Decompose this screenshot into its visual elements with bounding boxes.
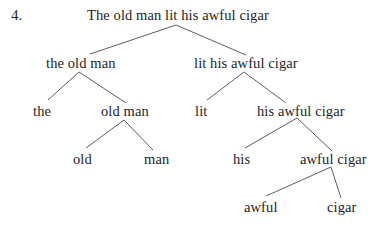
- node-lit-his-awful-cigar: lit his awful cigar: [194, 56, 298, 71]
- edge-oldman-left: [86, 120, 124, 148]
- edge-np-right: [297, 118, 332, 151]
- node-root: The old man lit his awful cigar: [87, 8, 269, 23]
- edge-root-left: [90, 25, 176, 54]
- node-the-old-man: the old man: [46, 56, 116, 71]
- node-his: his: [233, 152, 250, 167]
- edge-np-left: [245, 118, 297, 148]
- edge-theoldman-left: [48, 72, 79, 100]
- edge-root-right: [176, 25, 246, 55]
- edge-awfulcigar-left: [266, 167, 331, 196]
- edge-vp-left: [207, 72, 244, 100]
- edge-awfulcigar-right: [331, 167, 341, 198]
- node-awful-cigar: awful cigar: [300, 152, 367, 167]
- node-awful: awful: [244, 200, 278, 215]
- node-old: old: [73, 152, 92, 167]
- node-cigar: cigar: [327, 200, 356, 215]
- edge-vp-right: [244, 72, 286, 103]
- node-lit: lit: [195, 104, 207, 119]
- node-the: the: [33, 104, 51, 119]
- node-old-man: old man: [101, 104, 149, 119]
- node-his-awful-cigar: his awful cigar: [257, 104, 345, 119]
- edge-theoldman-right: [79, 72, 126, 103]
- example-number: 4.: [11, 8, 22, 23]
- node-man: man: [144, 152, 169, 167]
- edge-oldman-right: [124, 120, 153, 150]
- constituency-tree-diagram: 4. The old man lit his awful cigar the o…: [0, 0, 386, 228]
